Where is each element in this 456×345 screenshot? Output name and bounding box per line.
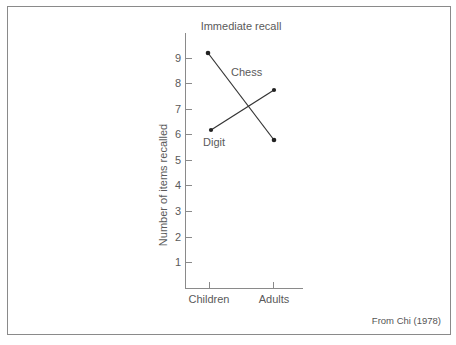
chess-point-adults — [272, 138, 277, 143]
y-tick-label-1: 1 — [175, 256, 181, 268]
series-chess — [206, 51, 277, 143]
y-tick-label-8: 8 — [175, 77, 181, 89]
x-ticks — [210, 282, 274, 288]
chart-title: Immediate recall — [201, 20, 282, 32]
y-axis-label: Number of items recalled — [157, 124, 169, 246]
digit-point-children — [209, 128, 213, 132]
digit-label: Digit — [203, 136, 225, 148]
x-tick-label-adults: Adults — [259, 293, 290, 305]
y-tick-label-6: 6 — [175, 128, 181, 140]
series-digit — [209, 88, 276, 132]
chess-label: Chess — [231, 66, 263, 78]
y-tick-label-5: 5 — [175, 154, 181, 166]
digit-point-adults — [272, 88, 276, 92]
line-chart: Immediate recall 1 2 3 4 5 6 7 8 9 Numbe… — [0, 0, 456, 345]
y-tick-label-7: 7 — [175, 103, 181, 115]
y-tick-label-2: 2 — [175, 231, 181, 243]
chess-point-children — [206, 51, 211, 56]
y-ticks — [185, 59, 192, 263]
x-tick-label-children: Children — [189, 293, 230, 305]
y-tick-label-4: 4 — [175, 179, 181, 191]
source-citation: From Chi (1978) — [372, 315, 441, 326]
y-tick-label-3: 3 — [175, 205, 181, 217]
y-tick-label-9: 9 — [175, 52, 181, 64]
